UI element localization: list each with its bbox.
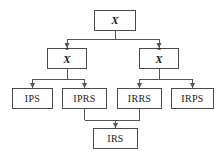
- node-iprs: IPRS: [62, 88, 107, 109]
- node-label: IRRS: [128, 94, 151, 104]
- node-ips: IPS: [12, 88, 53, 109]
- node-x: X: [94, 10, 136, 31]
- node-label: IPS: [25, 94, 40, 104]
- node-xhat: ˆX: [47, 48, 87, 69]
- accent-hat-icon: ˆ: [65, 48, 68, 58]
- node-label: IRPS: [181, 94, 203, 104]
- node-irrs: IRRS: [117, 88, 162, 109]
- node-label: IPRS: [73, 94, 95, 104]
- node-label: IRS: [107, 134, 123, 144]
- node-label: ˜X: [155, 52, 162, 65]
- node-label: X: [111, 15, 118, 26]
- node-label: ˆX: [63, 52, 70, 65]
- node-irs: IRS: [93, 128, 138, 149]
- tree-diagram: XˆX˜XIPSIPRSIRRSIRPSIRS: [0, 0, 222, 161]
- accent-tilde-icon: ˜: [157, 47, 161, 58]
- node-xtilde: ˜X: [139, 48, 179, 69]
- node-irps: IRPS: [171, 88, 214, 109]
